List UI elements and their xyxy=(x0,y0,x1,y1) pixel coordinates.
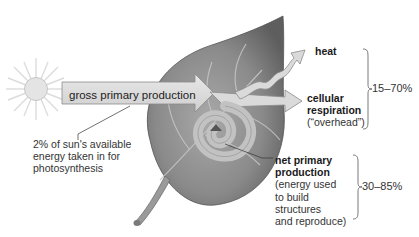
sun-energy-note: 2% of sun's available energy taken in fo… xyxy=(33,138,163,174)
cellular-respiration-title-line1: cellular xyxy=(307,92,365,104)
npp-percentage-range: 30–85% xyxy=(362,180,402,192)
respiration-percentage-range: 15–70% xyxy=(372,82,412,94)
npp-subtitle-line2: to build xyxy=(275,191,346,203)
bracket-lower xyxy=(353,155,362,219)
cellular-respiration-subtitle: (“overhead”) xyxy=(307,116,365,128)
npp-title-line1: net primary xyxy=(275,154,346,166)
gross-primary-production-label: gross primary production xyxy=(69,89,196,101)
npp-subtitle-line4: and reproduce) xyxy=(275,215,346,227)
cellular-respiration-label: cellular respiration (“overhead”) xyxy=(307,92,365,128)
net-primary-production-label: net primary production (energy used to b… xyxy=(275,154,346,227)
npp-title-line2: production xyxy=(275,166,346,178)
note-leader-line xyxy=(78,106,130,134)
heat-label: heat xyxy=(315,45,337,57)
sun-icon xyxy=(6,58,66,120)
cellular-respiration-title-line2: respiration xyxy=(307,104,365,116)
npp-subtitle-line3: structures xyxy=(275,203,346,215)
npp-subtitle-line1: (energy used xyxy=(275,178,346,190)
